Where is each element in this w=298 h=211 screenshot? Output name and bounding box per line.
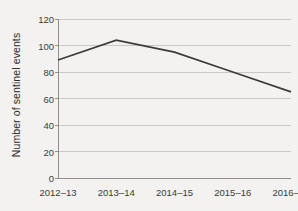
plot-area	[0, 0, 298, 211]
line-chart: Number of sentinel events 02040608010012…	[0, 0, 298, 211]
data-series-line	[58, 40, 291, 92]
